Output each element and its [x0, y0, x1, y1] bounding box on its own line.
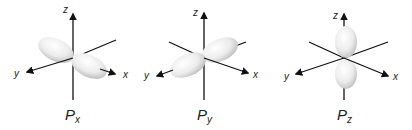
- x-axis-front: [204, 58, 248, 73]
- orbital-label-py: Py: [197, 107, 212, 125]
- lobe-bottom: [335, 59, 357, 89]
- x-axis-label: x: [123, 70, 128, 80]
- y-axis-label: y: [14, 69, 19, 79]
- z-axis-label: z: [63, 5, 68, 15]
- x-axis-label: x: [393, 72, 398, 82]
- z-axis-label: z: [333, 11, 338, 21]
- orbital-label-pz: Pz: [337, 107, 352, 125]
- orbital-px-panel: z y x Px: [0, 0, 137, 130]
- orbital-py-panel: z y x Py: [135, 0, 272, 130]
- y-axis-front: [157, 70, 173, 76]
- z-axis-label: z: [193, 8, 198, 18]
- lobe-front: [67, 48, 111, 84]
- y-axis-front: [27, 58, 73, 72]
- orbital-pz-panel: z y x Pz: [272, 0, 409, 130]
- x-axis-label: x: [253, 70, 258, 80]
- orbital-label-px: Px: [65, 107, 80, 125]
- y-axis-label: y: [284, 72, 289, 82]
- lobe-top: [335, 26, 357, 58]
- y-axis-label: y: [144, 71, 149, 81]
